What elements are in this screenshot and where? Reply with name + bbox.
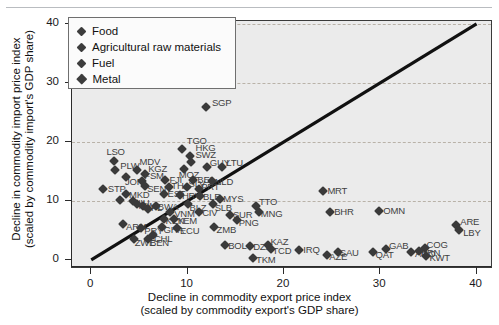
data-point-label: IRQ [303,245,319,255]
data-point-label: PNG [239,218,259,228]
y-axis-tick-label: 20 [33,135,59,146]
y-axis-tick [65,200,71,201]
data-point-label: SGP [212,98,231,108]
data-point-label: ARE [460,217,479,227]
legend-label: Fuel [92,57,114,69]
data-point-label: BOL [228,241,246,251]
diamond-marker-icon [77,26,87,36]
x-axis-tick [187,267,188,274]
x-axis-tick-label: 20 [263,277,303,289]
chart-figure: Decline in commodity import price index … [0,0,499,325]
data-point-label: TKM [256,255,275,265]
legend-item-fuel[interactable]: Fuel [78,55,235,71]
data-point-label: PRT [201,182,219,192]
y-axis-tick [65,141,71,142]
data-point-label: SAU [340,248,359,258]
diamond-marker-icon [77,58,87,68]
legend-label: Metal [93,73,121,85]
x-axis-tick [90,267,91,274]
data-point-label: GAB [389,241,408,251]
x-axis-tick-label: 10 [167,277,207,289]
diamond-marker-icon [77,42,87,52]
data-point-label: MNG [261,209,283,219]
data-point-label: MRT [327,186,347,196]
data-point-label: LBY [463,228,480,238]
data-point-label: BEN [150,238,169,248]
y-axis-tick-label: 40 [33,17,59,28]
x-axis-tick-label: 40 [456,277,496,289]
legend-item-food[interactable]: Food [78,23,235,39]
cropped-title-rule [6,7,492,8]
data-point-label: KWT [429,253,450,263]
legend-label: Food [92,25,118,37]
x-axis-tick-label: 30 [359,277,399,289]
data-point-label: ZMB [217,225,236,235]
data-point-label: LTU [226,158,243,168]
data-point-label: BHR [334,207,353,217]
data-point-label: OMN [383,206,405,216]
x-axis-title: Decline in commodity export price index … [0,291,499,317]
x-axis-tick-label: 0 [70,277,110,289]
x-axis-tick [283,267,284,274]
diamond-marker-icon [76,74,87,85]
legend-item-metal[interactable]: Metal [78,71,235,87]
y-axis-tick-label: 0 [33,253,59,264]
y-axis-tick [65,259,71,260]
legend-label: Agricultural raw materials [92,41,221,53]
x-axis-line [71,266,491,267]
legend: Food Agricultural raw materials Fuel Met… [68,17,236,89]
data-point-label: LSO [106,147,124,157]
y-axis-tick-label: 10 [33,194,59,205]
x-axis-tick [379,267,380,274]
data-point-label: COG [427,240,448,250]
data-point-label: ECU [180,226,199,236]
data-point-label: FSM [144,171,163,181]
x-axis-tick [476,267,477,274]
y-axis-tick-label: 30 [33,76,59,87]
data-point-label: CIV [202,208,217,218]
x-axis-title-line1: Decline in commodity export price index [148,291,351,303]
y-axis-title-line1: Decline in commodity import price index [10,37,22,240]
legend-item-agricultural-raw-materials[interactable]: Agricultural raw materials [78,39,235,55]
x-axis-title-line2: (scaled by commodity export's GDP share) [140,304,358,316]
data-point-label: TTO [259,197,277,207]
